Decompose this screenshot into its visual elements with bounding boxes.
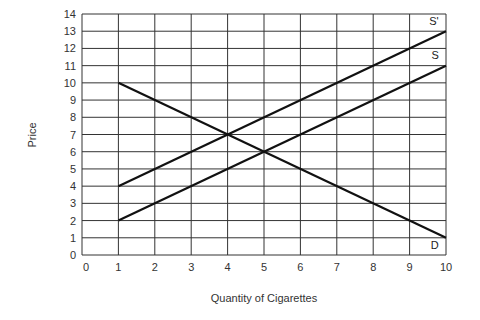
curve-label: S' — [429, 15, 438, 27]
grid — [82, 14, 446, 255]
x-axis-ticks: 012345678910 — [83, 261, 452, 273]
x-tick-label: 2 — [152, 261, 158, 273]
curve-sprime — [118, 31, 446, 186]
x-tick-label: 5 — [261, 261, 267, 273]
curve-d — [118, 83, 446, 238]
x-tick-label: 10 — [440, 261, 452, 273]
x-tick-label: 7 — [334, 261, 340, 273]
y-axis-title: Price — [26, 122, 38, 147]
x-tick-label: 6 — [297, 261, 303, 273]
y-tick-label: 9 — [70, 94, 76, 106]
y-tick-label: 8 — [70, 111, 76, 123]
x-tick-label: 4 — [225, 261, 231, 273]
x-tick-label: 1 — [115, 261, 121, 273]
x-axis-title: Quantity of Cigarettes — [211, 292, 318, 304]
curve-s — [118, 66, 446, 221]
y-tick-label: 14 — [64, 8, 76, 20]
y-axis-ticks: 01234567891011121314 — [64, 8, 76, 261]
curve-label: S — [431, 49, 438, 61]
y-tick-label: 12 — [64, 42, 76, 54]
y-tick-label: 1 — [70, 232, 76, 244]
y-tick-label: 7 — [70, 129, 76, 141]
x-tick-label: 9 — [407, 261, 413, 273]
curve-label: D — [431, 239, 439, 251]
y-tick-label: 13 — [64, 25, 76, 37]
y-tick-label: 5 — [70, 163, 76, 175]
x-tick-label: 3 — [188, 261, 194, 273]
y-tick-label: 3 — [70, 197, 76, 209]
supply-demand-chart: 01234567891011121314 012345678910 S'SD Q… — [0, 0, 480, 320]
y-tick-label: 11 — [65, 60, 76, 72]
y-tick-label: 2 — [70, 215, 76, 227]
x-tick-label: 0 — [83, 261, 89, 273]
x-tick-label: 8 — [370, 261, 376, 273]
y-tick-label: 0 — [70, 249, 76, 261]
y-tick-label: 10 — [64, 77, 76, 89]
y-tick-label: 6 — [70, 146, 76, 158]
curve-labels: S'SD — [429, 15, 438, 251]
y-tick-label: 4 — [70, 180, 76, 192]
